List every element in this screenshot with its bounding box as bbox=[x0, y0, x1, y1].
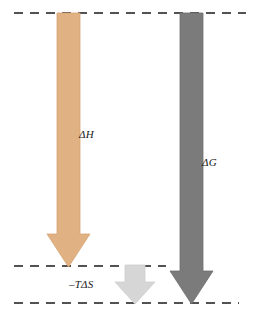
thermodynamics-energy-diagram: ΔH ΔG –TΔS bbox=[0, 0, 254, 319]
delta-h-arrow bbox=[47, 13, 90, 267]
delta-h-label: ΔH bbox=[79, 128, 94, 140]
delta-h-arrow-shape bbox=[47, 13, 90, 267]
minus-t-delta-s-arrow bbox=[115, 265, 155, 304]
minus-t-delta-s-arrow-shape bbox=[115, 265, 155, 304]
minus-t-delta-s-label: –TΔS bbox=[69, 278, 93, 290]
delta-g-label: ΔG bbox=[202, 156, 217, 168]
